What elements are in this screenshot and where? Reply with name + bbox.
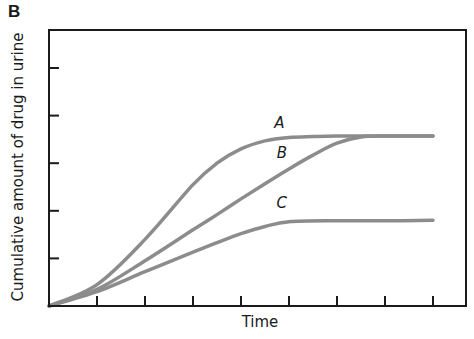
curve-labels: ABC	[273, 114, 287, 213]
x-axis-label: Time	[242, 313, 279, 331]
y-axis-label: Cumulative amount of drug in urine	[9, 33, 27, 302]
chart-canvas: ABC	[0, 0, 474, 339]
curve-c	[49, 220, 433, 306]
curve-label-b: B	[277, 144, 287, 162]
curves	[49, 136, 433, 306]
curve-label-c: C	[277, 194, 288, 212]
curve-label-a: A	[273, 114, 284, 132]
y-ticks	[49, 68, 59, 258]
plot-frame	[49, 30, 466, 306]
x-ticks	[97, 296, 433, 306]
